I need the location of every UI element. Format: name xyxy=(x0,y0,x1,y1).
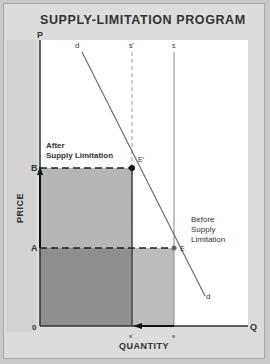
after-label-line2: Supply Limitation xyxy=(46,151,113,160)
point-e xyxy=(172,246,177,251)
demand-bottom-label: d xyxy=(206,292,210,301)
price-a-label: A xyxy=(31,243,38,253)
s-bottom-label: s xyxy=(172,333,175,339)
demand-top-label: d xyxy=(75,41,79,50)
origin-label: 0 xyxy=(32,323,37,332)
s-prime-bottom-label: s' xyxy=(129,333,133,339)
after-label-line1: After xyxy=(46,141,65,150)
q-axis-label: Q xyxy=(250,322,257,332)
before-revenue-region xyxy=(132,248,174,326)
price-b-label: B xyxy=(31,163,38,173)
overlap-region xyxy=(40,248,132,326)
supply-limitation-chart: P Q 0 B A PRICE QUANTITY s' s s' s d d E… xyxy=(0,0,270,364)
s-top-label: s xyxy=(172,42,176,49)
after-revenue-region xyxy=(40,168,132,248)
before-label-line1: Before xyxy=(191,215,215,224)
before-label-line3: Limitation xyxy=(191,235,225,244)
e-label: E xyxy=(180,245,185,252)
quantity-axis-title: QUANTITY xyxy=(119,341,169,351)
e-prime-label: E' xyxy=(138,156,144,163)
s-prime-top-label: s' xyxy=(129,42,134,49)
price-axis-title: PRICE xyxy=(15,193,25,223)
before-label-line2: Supply xyxy=(191,225,215,234)
p-axis-label: P xyxy=(37,30,43,40)
point-e-prime xyxy=(129,165,135,171)
